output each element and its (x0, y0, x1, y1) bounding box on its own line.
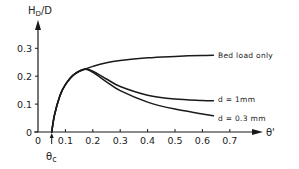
y-tick-label: 0.1 (17, 99, 32, 110)
curves (52, 55, 214, 132)
series-label-bed-load: Bed load only (218, 51, 273, 60)
theta-c-label: θc (46, 151, 57, 164)
x-tick-label: 0.7 (222, 135, 237, 146)
series-d-1mm (52, 69, 214, 132)
series-label-d-1mm: d = 1mm (218, 95, 255, 104)
series-bed-load-only (52, 55, 214, 132)
x-tick-label: 0.3 (113, 135, 128, 146)
y-tick-label: 0.2 (17, 71, 32, 82)
series-label-d-03mm: d = 0.3 mm (218, 114, 266, 123)
y-tick-label: 0 (26, 127, 32, 138)
chart: 00.10.20.30.40.50.60.700.10.20.3 HD/D θ'… (0, 0, 299, 169)
x-tick-label: 0.2 (85, 135, 100, 146)
x-tick-label: 0.1 (58, 135, 73, 146)
x-tick-label: 0.4 (140, 135, 155, 146)
theta-c-arrow-icon (50, 133, 54, 138)
y-axis-title: HD/D (28, 5, 52, 18)
y-tick-label: 0.3 (17, 43, 32, 54)
x-tick-label: 0 (35, 135, 41, 146)
x-tick-label: 0.5 (167, 135, 182, 146)
axes: 00.10.20.30.40.50.60.700.10.20.3 (17, 20, 263, 146)
x-axis-title: θ' (266, 127, 275, 138)
y-axis-arrow-icon (35, 20, 41, 30)
x-axis-arrow-icon (252, 129, 263, 135)
x-tick-label: 0.6 (195, 135, 210, 146)
